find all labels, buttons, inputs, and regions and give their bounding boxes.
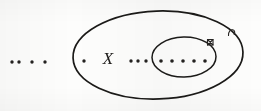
inner-set-ellipse — [152, 36, 217, 77]
dot — [181, 59, 185, 63]
dot-inside-outer-left — [82, 59, 85, 62]
diagram-canvas: X — [0, 0, 261, 111]
figure-root: X — [0, 0, 261, 111]
dot — [10, 60, 13, 63]
dots-between-label-and-inner — [129, 59, 147, 62]
dots-inside-inner — [159, 59, 207, 63]
dot — [43, 60, 46, 63]
outer-set-ellipse — [72, 8, 245, 102]
dot — [129, 59, 132, 62]
dot — [17, 60, 20, 63]
outer-set-label: X — [102, 49, 114, 68]
dot — [136, 59, 139, 62]
dot — [170, 59, 174, 63]
mark-inner-boundary-icon — [208, 40, 214, 46]
dot — [203, 59, 207, 63]
dot — [192, 59, 196, 63]
dot — [82, 59, 85, 62]
dots-outside-left — [10, 60, 46, 63]
dot — [159, 59, 163, 63]
dot — [144, 59, 147, 62]
dot — [30, 60, 33, 63]
